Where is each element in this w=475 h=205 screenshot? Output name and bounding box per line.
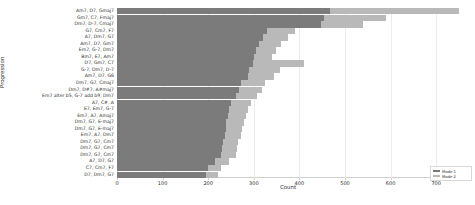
bar-segment [259,41,281,47]
bar-segment [231,100,251,106]
bar-row: D7, Gm7, C7 [117,60,459,66]
bar-segment [117,8,330,14]
bar-segment [117,67,249,73]
bar-segment [117,60,253,66]
bar-segment [321,21,363,27]
bar-segment [117,172,206,178]
bar-segment [236,93,257,99]
bar-segment [229,106,248,112]
bar-row: Am7, D7, G6 [117,73,459,79]
y-tick-label: Em7, A7, Dm7 [81,132,114,138]
bar-segment [253,60,304,66]
chart-legend: Mode 1Mode 2 [430,166,472,181]
bar-segment [117,28,267,34]
bar-segment [267,28,294,34]
y-tick-label: D7, Dm7, G7 [84,172,114,178]
legend-item: Mode 2 [433,174,469,179]
bar-row: Dm7, G7, E-maj7 [117,119,459,125]
bar-segment [117,158,215,164]
bar-segment [117,15,324,21]
bar-segment [241,80,265,86]
bar-segment [221,152,236,158]
bar-row: G7, Cm7, F7 [117,28,459,34]
y-tick-label: Em7, A7, Amaj7 [77,113,114,119]
plot-area: Am7, D7, Gmaj7Gm7, C7, Fmaj7Dm7, D-7, Cm… [117,8,459,178]
bar-segment [206,172,218,178]
bar-segment [117,47,256,53]
y-tick-label: Bm7, E7, Am7 [81,54,114,60]
bar-segment [215,158,229,164]
bar-row: A7, Dm7, G7 [117,34,459,40]
bar-segment [117,54,254,60]
bar-row: Bm7, E7, Am7 [117,54,459,60]
y-tick-label: Dm7, G7, E-maj7 [75,126,114,132]
bar-row: Dm7, G7, Cm7 [117,145,459,151]
y-tick-label: Am7, D7, Gmaj7 [76,8,114,14]
bar-row: Em7 alter b5, G-7 add b9, Dm7 [117,93,459,99]
bar-row: Em7, A7, Amaj7 [117,113,459,119]
legend-swatch [433,170,440,172]
y-tick-label: Dm7, G7, Cm7 [80,145,114,151]
bar-row: C7, Cm7, F7 [117,165,459,171]
y-tick-label: Dm7, D#7, A#maj7 [68,87,114,93]
bar-segment [117,165,208,171]
bar-segment [254,54,272,60]
bar-segment [222,145,237,151]
bar-row: Dm7, G7, Cmaj7 [117,80,459,86]
bar-segment [117,145,222,151]
bar-row: Dm7, G7, Cm7 [117,152,459,158]
bar-segment [117,119,226,125]
bar-segment [225,132,241,138]
bar-segment [248,73,274,79]
bar-segment [249,67,280,73]
y-tick-label: Am7, D7, G6 [85,73,114,79]
y-tick-label: E7, Em7, G-7 [84,106,114,112]
bar-segment [263,34,288,40]
bar-segment [226,119,243,125]
y-tick-label: Dm7, G7, Cm7 [80,139,114,145]
x-axis-label: Count [117,184,459,190]
bar-segment [117,21,321,27]
bar-row: G-7, Dm7, D-7 [117,67,459,73]
y-tick-label: Am7, D7, Gm7 [80,41,114,47]
chart-figure: Progression Am7, D7, Gmaj7Gm7, C7, Fmaj7… [0,0,475,205]
bar-row: E7, Em7, G-7 [117,106,459,112]
bar-segment [208,165,221,171]
y-tick-label: G-7, Dm7, D-7 [81,67,114,73]
bar-row: Em7, G-7, Dm7 [117,47,459,53]
bar-segment [117,87,239,93]
bar-segment [226,126,243,132]
legend-label: Mode 2 [442,174,456,179]
bar-row: A7, C#, A [117,100,459,106]
bar-segment [117,132,225,138]
y-tick-label: Dm7, G7, Cm7 [80,152,114,158]
bar-segment [117,34,263,40]
bar-segment [117,100,231,106]
y-tick-label: Gm7, C7, Fmaj7 [77,15,114,21]
bar-segment [228,113,246,119]
bar-row: Dm7, G7, E-maj7 [117,126,459,132]
bar-row: Gm7, C7, Fmaj7 [117,15,459,21]
bar-segment [117,113,228,119]
y-tick-label: Dm7, D-7, Cmaj7 [74,21,114,27]
bar-row: D7, Dm7, G7 [117,172,459,178]
bar-segment [256,47,276,53]
bar-row: Am7, D7, Gm7 [117,41,459,47]
bar-segment [117,139,223,145]
bar-segment [324,15,386,21]
y-tick-label: Em7, G-7, Dm7 [79,47,114,53]
bar-segment [239,87,262,93]
bar-segment [117,152,221,158]
bar-segment [330,8,459,14]
bar-row: Dm7, G7, Cm7 [117,139,459,145]
y-tick-label: A7, C#, A [92,100,114,106]
bar-row: Dm7, D-7, Cmaj7 [117,21,459,27]
bar-segment [117,106,229,112]
y-tick-label: D7, Gm7, C7 [85,60,114,66]
y-tick-label: C7, Cm7, F7 [86,165,114,171]
legend-swatch [433,175,440,177]
y-tick-label: G7, Cm7, F7 [86,28,115,34]
bar-row: Em7, A7, Dm7 [117,132,459,138]
y-tick-label: Dm7, G7, Cmaj7 [76,80,114,86]
bar-segment [117,93,236,99]
